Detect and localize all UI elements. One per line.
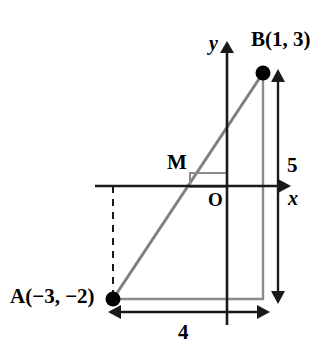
point-m-label: M	[167, 152, 187, 173]
point-a-dot	[106, 292, 121, 307]
dimension-arrowhead-bottom	[271, 291, 285, 304]
dimension-label-vertical: 5	[287, 155, 298, 176]
y-axis-arrowhead	[220, 41, 234, 53]
point-b-label: B(1, 3)	[251, 29, 311, 50]
y-axis-label: y	[209, 33, 218, 53]
origin-label: O	[208, 190, 223, 209]
point-b-dot	[256, 66, 271, 81]
dimension-arrowhead-top	[271, 69, 285, 82]
x-axis-label: x	[288, 188, 298, 208]
dimension-label-horizontal: 4	[178, 322, 189, 343]
point-a-label: A(−3, −2)	[10, 286, 95, 307]
coordinate-geometry-figure: y x O B(1, 3) A(−3, −2) M 5 4	[0, 0, 324, 354]
dimension-arrowhead-right	[257, 305, 270, 319]
dimension-arrowhead-left	[108, 305, 121, 319]
